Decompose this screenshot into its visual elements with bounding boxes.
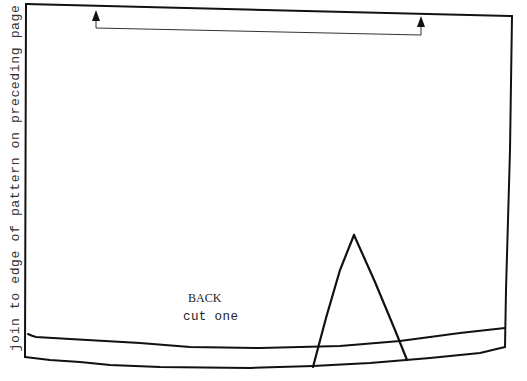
grainline-line xyxy=(96,28,421,35)
pattern-piece-drawing xyxy=(0,0,527,381)
top-edge-line xyxy=(26,4,512,16)
grainline-arrow xyxy=(92,10,425,35)
piece-name-label: BACK xyxy=(188,291,221,305)
cut-instruction-label: cut one xyxy=(183,310,238,324)
arrowhead-left-icon xyxy=(92,10,100,21)
arrowhead-right-icon xyxy=(417,16,425,27)
right-edge-line xyxy=(505,16,512,347)
dart-left-leg xyxy=(313,235,354,367)
left-edge-line xyxy=(25,4,26,357)
bottom-edge-line xyxy=(25,347,505,368)
hem-fold-line xyxy=(28,328,505,348)
dart-right-leg xyxy=(354,235,407,360)
join-edge-instruction: join to edge of pattern on preceding pag… xyxy=(8,0,24,358)
